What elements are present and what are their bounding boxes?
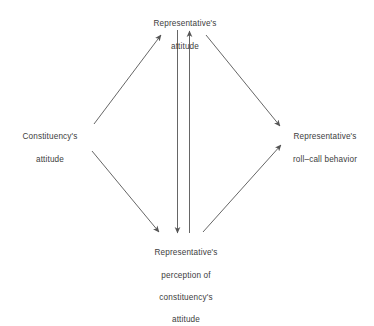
- node-representatives-perception-of-constituencys-attitude: Representative's perception of constitue…: [133, 236, 239, 326]
- node-label-line: Representative's: [133, 247, 239, 258]
- node-label-line: perception of: [133, 270, 239, 281]
- node-label-line: Representative's: [276, 131, 374, 142]
- node-label-line: attitude: [132, 41, 238, 52]
- edge-bottom-to-right: [203, 145, 281, 232]
- node-constituencys-attitude: Constituency's attitude: [2, 120, 98, 176]
- node-label-line: attitude: [2, 154, 98, 165]
- node-label-line: attitude: [133, 314, 239, 325]
- node-label-line: Constituency's: [2, 131, 98, 142]
- node-representatives-attitude: Representative's attitude: [132, 7, 238, 63]
- node-representatives-roll-call-behavior: Representative's roll–call behavior: [276, 120, 374, 176]
- edge-left-to-bottom: [92, 151, 159, 232]
- node-label-line: roll–call behavior: [276, 154, 374, 165]
- node-label-line: Representative's: [132, 18, 238, 29]
- node-label-line: constituency's: [133, 292, 239, 303]
